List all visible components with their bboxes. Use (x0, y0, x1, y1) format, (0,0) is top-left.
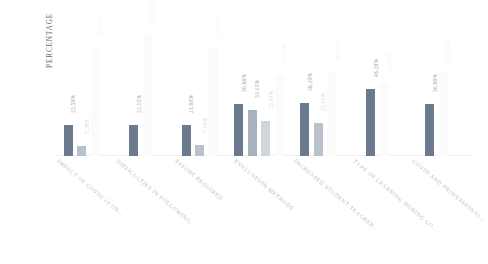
bar-value-label: 21.80% (188, 95, 194, 113)
bar-rect (91, 48, 100, 156)
bar-group: 36.80%60.25% (425, 16, 448, 156)
bar-rect (380, 83, 389, 156)
bar-value-label: 7.20% (84, 119, 90, 134)
bar-group: 22.50%7.20%76.88% (64, 16, 100, 156)
bar-value-label: 76.88% (97, 18, 103, 36)
x-axis-tick-labels: IMPACT OF COVID 19 ON...DIFFICULTIES IN … (56, 158, 470, 264)
bar-group: 48.20%52.08% (366, 16, 389, 156)
bar-value-label: 38.20% (307, 72, 313, 90)
bar-value-label: 22.50% (70, 94, 76, 112)
bar-value-label: 25.10% (268, 91, 274, 109)
bar-value-label: 60.20% (334, 42, 340, 60)
plot-area: 22.50%7.20%76.88%22.15%87.24%21.80%7.70%… (56, 16, 470, 156)
bar-value-label: 52.08% (386, 53, 392, 71)
bar-value-label: 23.45% (320, 93, 326, 111)
bar-value-label: 7.70% (202, 118, 208, 133)
bar-rect (195, 145, 204, 156)
bar-rect (77, 146, 86, 156)
bar-rect (425, 104, 434, 156)
bar-value-label: 77.06% (215, 18, 221, 36)
bar-group: 38.20%23.45%60.20% (300, 16, 336, 156)
x-axis-label: IMPACT OF COVID 19 ON... (56, 158, 126, 218)
bar-value-label: 87.24% (149, 4, 155, 22)
bar-value-label: 60.25% (445, 42, 451, 60)
bar-rect (64, 125, 73, 157)
bar-rect (209, 48, 218, 156)
bar-rect (182, 125, 191, 156)
x-axis-label: EFFORT REQUIRED (174, 158, 225, 202)
bar-rect (327, 72, 336, 156)
bar-rect (314, 123, 323, 156)
bar-rect (234, 104, 243, 156)
bar-rect (366, 89, 375, 156)
bar-value-label: 22.15% (136, 95, 142, 113)
bar-rect (300, 103, 309, 156)
x-axis-label: EVALUATION METHODS (233, 158, 296, 212)
bar-value-label: 57.80% (281, 45, 287, 63)
bar-value-label: 48.20% (373, 58, 379, 76)
bar-value-label: 36.88% (241, 74, 247, 92)
bar-rect (275, 75, 284, 156)
bar-value-label: 33.15% (254, 79, 260, 97)
bar-rect (248, 110, 257, 156)
bar-rect (129, 125, 138, 156)
bar-group: 36.88%33.15%25.10%57.80% (234, 16, 284, 156)
bar-group: 21.80%7.70%77.06% (182, 16, 218, 156)
bar-rect (143, 34, 152, 156)
bar-rect (261, 121, 270, 156)
y-axis-title: PERCENTAGE (44, 0, 56, 68)
bar-rect (439, 72, 448, 156)
bar-group: 22.15%87.24% (129, 16, 152, 156)
bar-value-label: 36.80% (432, 74, 438, 92)
